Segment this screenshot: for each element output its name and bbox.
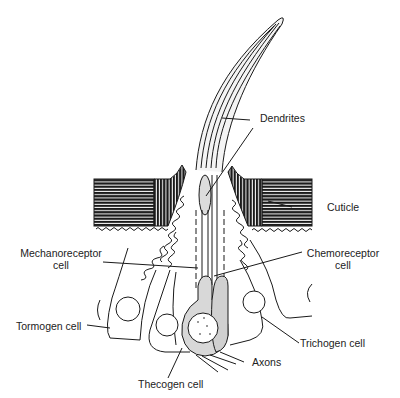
cuticle-right (228, 166, 312, 232)
label-chemoreceptor-line1: Chemoreceptor (304, 247, 382, 259)
label-axons: Axons (252, 356, 281, 368)
label-chemoreceptor-cell: Chemoreceptor cell (304, 247, 382, 271)
label-mechanoreceptor-cell: Mechanoreceptor cell (16, 247, 106, 271)
cuticle-left (94, 165, 186, 231)
trichogen-cell (230, 240, 312, 345)
label-dendrites: Dendrites (260, 112, 305, 124)
label-chemoreceptor-line2: cell (304, 259, 382, 271)
label-mechanoreceptor-line2: cell (16, 259, 106, 271)
label-cuticle: Cuticle (327, 201, 359, 213)
label-trichogen-cell: Trichogen cell (300, 337, 365, 349)
label-tormogen-cell: Tormogen cell (16, 320, 81, 332)
sensillum-diagram: Dendrites Cuticle Mechanoreceptor cell C… (0, 0, 400, 398)
label-thecogen-cell: Thecogen cell (138, 378, 203, 390)
label-mechanoreceptor-line1: Mechanoreceptor (16, 247, 106, 259)
sensory-neurons (182, 276, 236, 372)
